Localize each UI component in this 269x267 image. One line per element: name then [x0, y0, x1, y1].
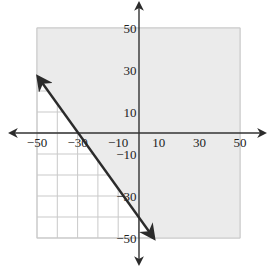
x-tick-label: 10: [152, 135, 165, 150]
y-tick-label: −50: [116, 231, 136, 246]
x-tick-label: 30: [193, 135, 206, 150]
y-tick-label: 10: [124, 105, 137, 120]
y-tick-label: −10: [116, 147, 136, 162]
inequality-graph: −50−30−10103050 503010−10−30−50: [0, 0, 269, 267]
y-tick-label: 50: [124, 21, 137, 36]
y-tick-label: 30: [124, 63, 137, 78]
y-tick-label: −30: [116, 189, 136, 204]
x-tick-label: −30: [67, 135, 87, 150]
x-tick-label: −50: [27, 135, 47, 150]
x-tick-label: 50: [234, 135, 247, 150]
